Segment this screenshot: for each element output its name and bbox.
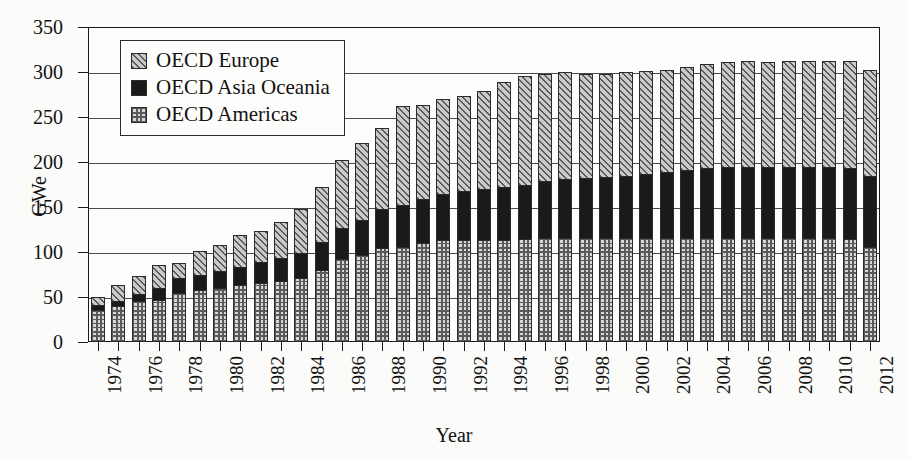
bar-1996[interactable] <box>538 72 552 342</box>
x-tick-label: 1978 <box>186 356 205 394</box>
x-tick-mark <box>809 342 810 351</box>
bar-segment-oecd-europe <box>355 143 369 220</box>
bar-1978[interactable] <box>172 261 186 342</box>
bar-segment-oecd-europe <box>863 70 877 177</box>
bar-2001[interactable] <box>639 69 653 342</box>
cross-hatch-swatch <box>131 107 147 123</box>
bar-2006[interactable] <box>741 59 755 342</box>
bar-segment-oecd-asia-oceania <box>579 178 593 238</box>
bar-segment-oecd-europe <box>782 61 796 168</box>
x-tick-label: 2006 <box>755 356 774 394</box>
bar-segment-oecd-americas <box>619 238 633 342</box>
bar-1976[interactable] <box>132 274 146 342</box>
x-tick-label: 1998 <box>593 356 612 394</box>
x-tick-label: 1982 <box>268 356 287 394</box>
bar-2005[interactable] <box>721 60 735 342</box>
bar-segment-oecd-americas <box>538 238 552 342</box>
x-tick-mark <box>382 342 383 351</box>
x-tick-mark <box>728 342 729 351</box>
bar-2002[interactable] <box>660 68 674 343</box>
bar-1982[interactable] <box>254 229 268 342</box>
bar-segment-oecd-europe <box>254 231 268 263</box>
bar-1975[interactable] <box>111 283 125 342</box>
bar-2000[interactable] <box>619 70 633 342</box>
bar-1992[interactable] <box>457 94 471 342</box>
bar-1977[interactable] <box>152 263 166 342</box>
legend-item-oecd-asia-oceania[interactable]: OECD Asia Oceania <box>131 74 330 101</box>
x-tick-mark <box>301 342 302 351</box>
x-tick-mark <box>179 342 180 351</box>
x-tick-label: 2010 <box>836 356 855 394</box>
bar-segment-oecd-europe <box>375 128 389 210</box>
bar-1993[interactable] <box>477 89 491 342</box>
bar-segment-oecd-europe <box>457 96 471 192</box>
bar-2011[interactable] <box>843 59 857 343</box>
bar-2008[interactable] <box>782 59 796 342</box>
bar-segment-oecd-asia-oceania <box>457 191 471 241</box>
bar-1980[interactable] <box>213 243 227 342</box>
chart-figure: GWe 050100150200250300350 19741976197819… <box>0 0 908 459</box>
bar-segment-oecd-asia-oceania <box>822 167 836 239</box>
bar-segment-oecd-asia-oceania <box>213 271 227 289</box>
bar-2007[interactable] <box>761 60 775 342</box>
bar-2003[interactable] <box>680 65 694 342</box>
bar-segment-oecd-asia-oceania <box>294 253 308 279</box>
bar-segment-oecd-europe <box>619 72 633 176</box>
bar-segment-oecd-europe <box>538 74 552 182</box>
legend-item-label: OECD Americas <box>156 104 298 125</box>
bar-2012[interactable] <box>863 68 877 342</box>
bar-segment-oecd-americas <box>274 281 288 342</box>
bar-1998[interactable] <box>579 72 593 342</box>
bar-segment-oecd-americas <box>132 301 146 342</box>
bar-2004[interactable] <box>700 62 714 342</box>
bar-1991[interactable] <box>436 97 450 342</box>
bar-segment-oecd-europe <box>639 71 653 175</box>
bar-1974[interactable] <box>91 295 105 342</box>
bar-1981[interactable] <box>233 233 247 342</box>
bar-segment-oecd-americas <box>802 238 816 342</box>
x-tick-mark <box>423 342 424 351</box>
x-tick-label: 2008 <box>796 356 815 394</box>
x-tick-mark <box>159 342 160 351</box>
bar-segment-oecd-asia-oceania <box>375 209 389 249</box>
bar-1994[interactable] <box>497 80 511 342</box>
bar-segment-oecd-europe <box>436 99 450 194</box>
bar-1997[interactable] <box>558 70 572 342</box>
bar-segment-oecd-americas <box>599 238 613 342</box>
bar-1988[interactable] <box>375 126 389 342</box>
x-tick-label: 1984 <box>308 356 327 394</box>
bar-segment-oecd-europe <box>721 62 735 167</box>
bar-1985[interactable] <box>315 185 329 343</box>
bar-1989[interactable] <box>396 104 410 343</box>
legend-item-oecd-americas[interactable]: OECD Americas <box>131 101 330 128</box>
bar-1987[interactable] <box>355 141 369 342</box>
bar-segment-oecd-americas <box>233 285 247 342</box>
bar-2009[interactable] <box>802 59 816 342</box>
bar-segment-oecd-europe <box>802 61 816 168</box>
legend-item-oecd-europe[interactable]: OECD Europe <box>131 47 330 74</box>
bar-segment-oecd-europe <box>741 61 755 167</box>
bar-1990[interactable] <box>416 103 430 342</box>
x-tick-mark <box>626 342 627 351</box>
bar-2010[interactable] <box>822 59 836 342</box>
x-tick-mark <box>789 342 790 351</box>
bar-segment-oecd-americas <box>721 238 735 342</box>
bar-segment-oecd-americas <box>660 238 674 342</box>
bar-segment-oecd-europe <box>700 64 714 169</box>
bar-1995[interactable] <box>518 74 532 342</box>
bar-1983[interactable] <box>274 220 288 342</box>
bar-segment-oecd-americas <box>579 238 593 342</box>
bar-segment-oecd-asia-oceania <box>639 174 653 239</box>
bar-1984[interactable] <box>294 207 308 342</box>
bar-segment-oecd-asia-oceania <box>741 167 755 239</box>
bar-segment-oecd-asia-oceania <box>538 181 552 239</box>
bar-segment-oecd-americas <box>335 259 349 342</box>
bar-1999[interactable] <box>599 72 613 342</box>
bar-segment-oecd-americas <box>761 238 775 342</box>
bar-1986[interactable] <box>335 158 349 343</box>
x-tick-label: 2004 <box>714 356 733 394</box>
bar-segment-oecd-europe <box>680 67 694 171</box>
bar-1979[interactable] <box>193 249 207 342</box>
bar-segment-oecd-europe <box>213 245 227 272</box>
x-tick-mark <box>870 342 871 351</box>
